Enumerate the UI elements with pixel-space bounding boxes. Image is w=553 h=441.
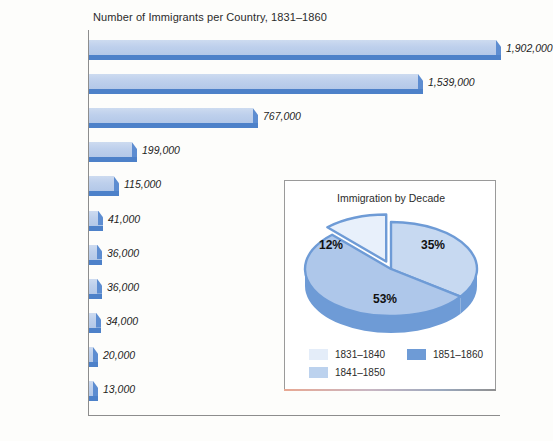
bar-end-cap — [97, 279, 102, 294]
bar-end-cap — [98, 211, 103, 226]
bar-value-label: 41,000 — [108, 213, 140, 225]
bar-end-cap — [97, 245, 102, 260]
bar-end-cap — [253, 108, 258, 123]
bar — [89, 108, 253, 128]
legend-item: 1851–1860 — [407, 349, 483, 360]
bar-face — [89, 108, 253, 123]
bar-face — [89, 40, 496, 55]
legend-label: 1831–1840 — [335, 349, 385, 360]
bar-face — [89, 381, 93, 396]
bar-shadow-edge — [89, 396, 98, 401]
bar-value-label: 115,000 — [124, 178, 161, 190]
bar-face — [89, 74, 418, 89]
bar-value-label: 36,000 — [107, 281, 139, 293]
bar-face — [89, 279, 97, 294]
bar-end-cap — [114, 176, 119, 191]
bar-face — [89, 211, 98, 226]
bar — [89, 40, 496, 60]
legend-swatch — [407, 349, 426, 360]
bar — [89, 142, 132, 162]
bar-end-cap — [418, 74, 423, 89]
bar-shadow-edge — [89, 226, 103, 231]
bar — [89, 74, 418, 94]
bar-value-label: 34,000 — [106, 315, 138, 327]
pie-chart: 35%53%12% — [285, 207, 497, 347]
legend-label: 1851–1860 — [433, 349, 483, 360]
pie-data-label: 12% — [319, 238, 343, 252]
pie-svg: 35%53%12% — [285, 207, 497, 347]
bar — [89, 347, 93, 367]
bar-value-label: 767,000 — [263, 110, 301, 122]
bar-face — [89, 142, 132, 157]
bar-shadow-edge — [89, 89, 423, 94]
bar — [89, 313, 96, 333]
bar-face — [89, 176, 114, 191]
legend-swatch — [309, 349, 328, 360]
bar-shadow-edge — [89, 157, 137, 162]
page-title: Number of Immigrants per Country, 1831–1… — [93, 11, 327, 23]
legend-label: 1841–1850 — [335, 367, 385, 378]
bar-value-label: 20,000 — [103, 349, 135, 361]
bar-shadow-edge — [89, 328, 101, 333]
bar-value-label: 36,000 — [107, 247, 139, 259]
bar-end-cap — [93, 347, 98, 362]
x-axis-line — [88, 415, 500, 416]
bar-end-cap — [96, 313, 101, 328]
inset-title: Immigration by Decade — [285, 192, 497, 204]
bar-shadow-edge — [89, 191, 119, 196]
bar-end-cap — [496, 40, 501, 55]
legend-item: 1841–1850 — [309, 367, 385, 378]
bar-value-label: 199,000 — [142, 144, 180, 156]
bar-value-label: 1,539,000 — [428, 76, 475, 88]
bar — [89, 279, 97, 299]
bar-shadow-edge — [89, 55, 501, 60]
bar-shadow-edge — [89, 260, 102, 265]
bar-face — [89, 313, 96, 328]
bar-value-label: 1,902,000 — [506, 42, 553, 54]
bar-face — [89, 347, 93, 362]
bar-end-cap — [132, 142, 137, 157]
legend-swatch — [309, 367, 328, 378]
pie-data-label: 53% — [373, 292, 397, 306]
bar — [89, 245, 97, 265]
bar-value-label: 13,000 — [103, 383, 135, 395]
inset-panel: Immigration by Decade 35%53%12% 1831–184… — [284, 180, 496, 391]
bar — [89, 381, 93, 401]
legend-item: 1831–1840 — [309, 349, 385, 360]
pie-data-label: 35% — [421, 238, 445, 252]
bar-shadow-edge — [89, 294, 102, 299]
inset-accent-bar — [284, 389, 496, 391]
bar-face — [89, 245, 97, 260]
bar-shadow-edge — [89, 362, 98, 367]
bar — [89, 176, 114, 196]
bar-end-cap — [93, 381, 98, 396]
bar — [89, 211, 98, 231]
bar-shadow-edge — [89, 123, 258, 128]
